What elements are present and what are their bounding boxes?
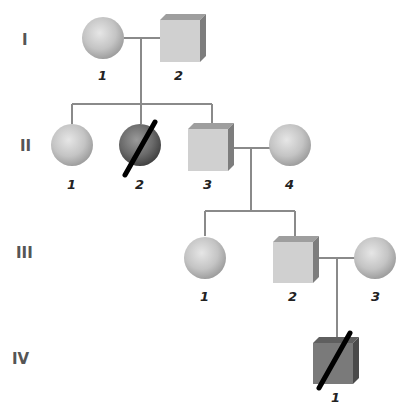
individual-III-2: 2	[273, 236, 319, 304]
relationship-lines	[72, 38, 355, 338]
individual-II-2: 2	[119, 122, 161, 192]
individual-number: 4	[284, 177, 294, 192]
individual-I-2: 2	[160, 14, 206, 83]
female-symbol	[82, 17, 124, 59]
individual-number: 1	[331, 390, 340, 405]
generation-label-I: I	[22, 31, 28, 49]
female-symbol	[354, 237, 396, 279]
individual-number: 3	[203, 177, 212, 192]
generation-label-IV: IV	[12, 350, 30, 368]
individual-II-1: 1	[51, 124, 93, 192]
individual-number: 2	[174, 68, 183, 83]
female-symbol	[184, 237, 226, 279]
individual-III-3: 3	[354, 237, 396, 304]
generation-label-III: III	[16, 244, 33, 262]
individual-I-1: 1	[82, 17, 124, 83]
individual-number: 1	[67, 177, 76, 192]
individual-number: 2	[288, 289, 297, 304]
male-symbol	[188, 129, 228, 171]
individual-II-3: 3	[188, 123, 234, 192]
female-symbol	[51, 124, 93, 166]
individual-number: 3	[371, 289, 380, 304]
pedigree-chart: I II III IV 1 2 1 2	[0, 0, 408, 413]
individual-number: 1	[98, 68, 107, 83]
individual-III-1: 1	[184, 237, 226, 304]
male-symbol	[273, 242, 313, 283]
female-symbol	[269, 124, 311, 166]
individual-number: 2	[135, 177, 144, 192]
male-symbol	[160, 20, 200, 62]
individual-IV-1: 1	[313, 333, 359, 405]
individual-II-4: 4	[269, 124, 311, 192]
generation-label-II: II	[20, 137, 31, 155]
individual-number: 1	[200, 289, 209, 304]
